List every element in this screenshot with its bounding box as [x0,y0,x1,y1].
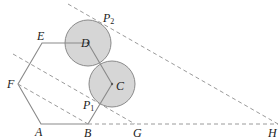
dashed-line-p2-h [68,4,278,124]
label-e: E [36,29,45,43]
label-a: A [34,125,43,139]
label-h: H [267,126,278,139]
label-p2: P2 [102,11,114,26]
label-p1: P1 [82,98,94,113]
label-g: G [133,126,142,139]
label-f: F [6,77,15,91]
label-d: D [80,36,90,50]
dashed-line-f-b [18,84,88,124]
label-c: C [116,79,125,93]
label-b: B [84,126,92,139]
point-c [111,83,113,85]
geometry-figure: A B C D E F G H P1 P2 [0,0,280,139]
diagram-canvas: A B C D E F G H P1 P2 [0,0,280,139]
